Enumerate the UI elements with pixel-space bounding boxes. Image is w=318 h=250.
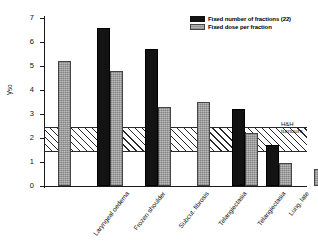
legend-label-fixed-dose-per-fraction: Fixed dose per fraction [208, 24, 272, 30]
x-tick-label-telangiectasia-1: Telangiectasia [217, 190, 248, 227]
x-tick-label-frozen-shoulder: Frozen shoulder [132, 190, 166, 231]
x-tick-label-lung-late: Lung, late [287, 190, 310, 217]
legend-item-fixed-number-of-fractions: Fixed number of fractions (22) [190, 16, 291, 22]
legend-swatch-dark-icon [190, 16, 205, 22]
legend-item-fixed-dose-per-fraction: Fixed dose per fraction [190, 24, 291, 30]
x-tick-label-laryngeal-oedema: Laryngeal oedema [92, 190, 131, 237]
x-axis-tick-labels: Laryngeal oedema Frozen shoulder Subcut.… [0, 0, 318, 250]
chart-legend: Fixed number of fractions (22) Fixed dos… [190, 16, 291, 32]
legend-label-fixed-number-of-fractions: Fixed number of fractions (22) [208, 16, 291, 22]
x-tick-label-telangiectasia-2: Telangiectasia [256, 190, 287, 227]
chart-figure: 7 6 5 4 3 2 1 0 γ50 H&Htumours Larynge [0, 0, 318, 250]
x-tick-label-subcut-fibrosis: Subcut. fibrosis [177, 190, 210, 229]
legend-swatch-light-icon [190, 24, 205, 30]
